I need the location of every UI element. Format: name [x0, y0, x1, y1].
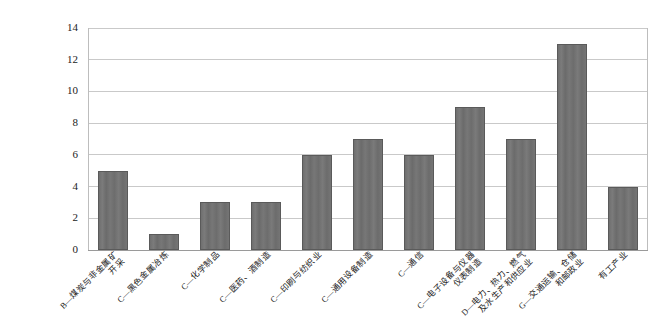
y-tick-label: 2 — [44, 212, 78, 223]
y-tick-label: 6 — [44, 149, 78, 160]
bar — [608, 187, 638, 250]
bar — [404, 155, 434, 250]
y-tick-label: 12 — [44, 54, 78, 65]
bars-container — [88, 28, 648, 250]
bar — [149, 234, 179, 250]
bar — [200, 202, 230, 250]
bar — [506, 139, 536, 250]
bar — [302, 155, 332, 250]
bar — [353, 139, 383, 250]
bar — [98, 171, 128, 250]
bar — [557, 44, 587, 250]
y-tick-label: 8 — [44, 117, 78, 128]
y-tick-label: 10 — [44, 85, 78, 96]
bar — [251, 202, 281, 250]
y-tick-label: 0 — [44, 244, 78, 255]
plot-area — [88, 28, 648, 250]
y-tick-label: 14 — [44, 22, 78, 33]
y-tick-label: 4 — [44, 181, 78, 192]
x-axis-labels: B—煤炭与非金属矿 开采C—黑色金属冶炼C—化学制品C—医药、酒制造C—印刷与纺… — [88, 250, 648, 330]
bar-chart: 02468101214 B—煤炭与非金属矿 开采C—黑色金属冶炼C—化学制品C—… — [0, 0, 663, 330]
bar — [455, 107, 485, 250]
